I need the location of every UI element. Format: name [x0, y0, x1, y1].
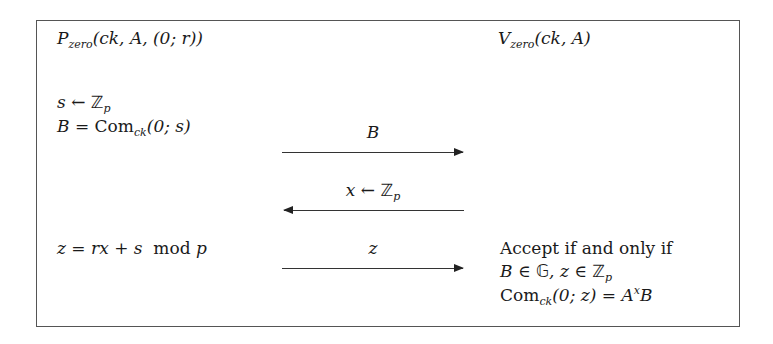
verifier-check-membership: B ∈ 𝔾, z ∈ ℤp	[500, 261, 612, 281]
mod-op: mod	[153, 238, 190, 258]
step-lhs: B	[57, 116, 70, 136]
step-sub: p	[103, 102, 110, 115]
prover-step-sample: s ← ℤp	[57, 92, 111, 112]
verifier-args: (ck, A)	[534, 28, 590, 48]
response-expr: z = rx + s	[57, 238, 143, 258]
prover-title: Pzero(ck, A, (0; r))	[57, 28, 203, 48]
check-part: B ∈	[500, 261, 536, 281]
group-symbol: 𝔾	[536, 261, 549, 281]
verifier-accept-text: Accept if and only if	[500, 238, 672, 258]
verifier-title: Vzero(ck, A)	[498, 28, 591, 48]
prover-args: (ck, A, (0; r))	[93, 28, 203, 48]
integers-symbol: ℤ	[91, 92, 104, 112]
prover-step-commit: B = Comck(0; s)	[57, 116, 191, 136]
check-part: , z ∈	[549, 261, 592, 281]
step-lhs: s	[57, 92, 66, 112]
message-sub: p	[393, 190, 400, 203]
prover-response: z = rx + s mod p	[57, 238, 207, 258]
right-arrow-icon	[282, 152, 463, 153]
com-args: (0; s)	[147, 116, 191, 136]
check-sub: p	[605, 271, 612, 284]
verifier-check-commitment: Comck(0; z) = AxB	[500, 285, 652, 305]
message-label-z: z	[282, 238, 464, 258]
check-tail: B	[640, 285, 653, 305]
message-label-b: B	[282, 122, 464, 142]
prover-subscript: zero	[68, 38, 92, 51]
modulus: p	[196, 238, 207, 258]
equals-op: =	[70, 116, 95, 136]
message-label-challenge: x ← ℤp	[282, 180, 464, 200]
message-var: z	[369, 238, 378, 258]
integers-symbol: ℤ	[592, 261, 605, 281]
verifier-symbol: V	[498, 28, 510, 48]
com-args: (0; z) = A	[552, 285, 634, 305]
com-function: Com	[500, 285, 539, 305]
left-arrow-op: ←	[355, 180, 380, 200]
verifier-subscript: zero	[510, 38, 534, 51]
com-function: Com	[95, 116, 134, 136]
message-var: x	[346, 180, 356, 200]
com-sub: ck	[134, 126, 147, 139]
protocol-frame	[36, 20, 740, 327]
message-var: B	[367, 122, 380, 142]
left-arrow-icon	[284, 210, 464, 211]
prover-symbol: P	[57, 28, 68, 48]
right-arrow-icon	[282, 268, 463, 269]
left-arrow-op: ←	[66, 92, 91, 112]
com-sub: ck	[539, 295, 552, 308]
integers-symbol: ℤ	[380, 180, 393, 200]
